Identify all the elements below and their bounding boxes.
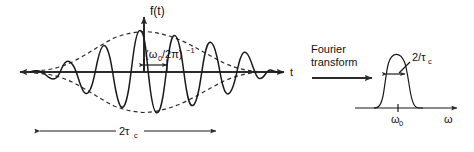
frequency-domain-panel: 2/τ c ω 0 ω <box>355 51 457 128</box>
period-label-superscript: −1 <box>186 46 195 55</box>
omega-axis-label: ω <box>444 113 453 125</box>
bandwidth-label-subscript: c <box>428 57 432 66</box>
width-label-subscript: c <box>134 131 138 140</box>
fourier-label-line1: Fourier <box>311 43 346 55</box>
time-domain-panel: (ω 0 /2π) −1 f(t) t 2τ c <box>20 4 293 140</box>
figure-root: (ω 0 /2π) −1 f(t) t 2τ c Fourier transfo… <box>0 0 474 152</box>
bandwidth-label: 2/τ <box>412 51 426 63</box>
omega0-label-subscript: 0 <box>399 119 403 128</box>
fourier-label-line2: transform <box>311 56 357 68</box>
period-label-mid: /2π) <box>162 48 182 60</box>
envelope-lower-dashed <box>34 73 258 113</box>
ft-axis-label: f(t) <box>150 4 165 18</box>
period-label-open: (ω <box>145 48 158 60</box>
t-axis-label: t <box>290 66 293 78</box>
fourier-transform-group: Fourier transform <box>311 43 372 78</box>
width-label: 2τ <box>119 125 130 137</box>
